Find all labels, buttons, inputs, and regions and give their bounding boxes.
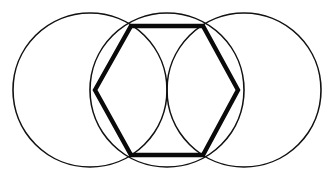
figure-container bbox=[0, 0, 331, 181]
geometry-diagram bbox=[0, 0, 331, 181]
